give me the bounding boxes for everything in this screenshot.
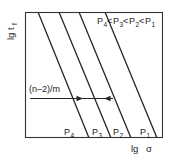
legend-p1-base: P — [145, 16, 151, 26]
x-axis-label-sub: σ — [146, 143, 152, 154]
x-axis-label-main: lg — [131, 143, 138, 154]
curve-label-p1-sub: 1 — [147, 132, 151, 139]
curve-label-p1-base: P — [140, 127, 146, 137]
y-axis-label-main: lg t — [5, 27, 16, 40]
curve-label-p3-base: P — [92, 127, 98, 137]
figure-container: lg t f lg σ P 4 < P 3 < P 2 < P 1 (n–2)/… — [0, 0, 174, 162]
legend-op-2: < — [123, 16, 128, 26]
legend-op-1: < — [107, 16, 112, 26]
legend-p2-base: P — [129, 16, 135, 26]
slope-annotation-label: (n–2)/m — [29, 84, 60, 94]
y-axis-label-sub: f — [11, 23, 18, 25]
curve-label-p3-sub: 3 — [99, 132, 103, 139]
legend-p1-sub: 1 — [152, 21, 156, 28]
legend-p4-base: P — [97, 16, 103, 26]
curve-label-p2-sub: 2 — [120, 132, 124, 139]
legend-p3-base: P — [113, 16, 119, 26]
curve-label-p2-base: P — [113, 127, 119, 137]
curve-label-p4-sub: 4 — [71, 132, 75, 139]
legend-op-3: < — [139, 16, 144, 26]
curve-label-p4-base: P — [64, 127, 70, 137]
diagram-canvas: lg t f lg σ P 4 < P 3 < P 2 < P 1 (n–2)/… — [0, 0, 174, 162]
